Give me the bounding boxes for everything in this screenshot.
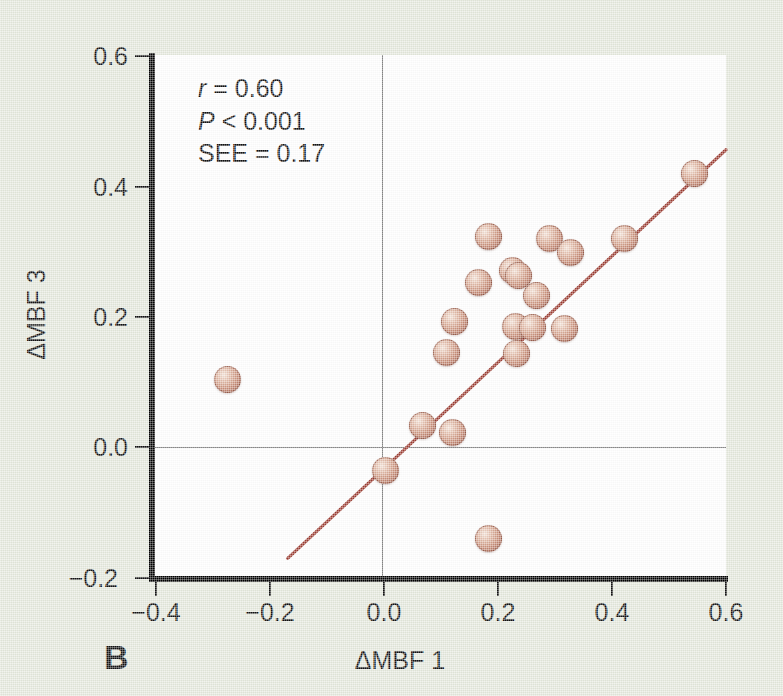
x-tick-0.4 [611,582,613,596]
data-point [557,239,584,266]
x-tick-0.6 [725,582,727,596]
x-tick--0.4 [155,582,157,596]
x-tick-label--0.4: −0.4 [111,598,201,627]
stat-r: r = 0.60 [198,72,325,105]
x-tick-label-0.4: 0.4 [567,598,657,627]
data-point [519,314,546,341]
stat-p: P < 0.001 [198,105,325,138]
statistics-annotation: r = 0.60 P < 0.001 SEE = 0.17 [198,72,325,170]
stat-p-value: < 0.001 [215,107,306,135]
figure-panel: B ΔMBF 3 ΔMBF 1 0.6 0.4 0.2 0.0 −0.2 −0.… [0,0,783,696]
y-tick-0.0 [135,446,149,448]
y-tick-label-0.2: 0.2 [62,303,128,332]
data-point [551,315,578,342]
y-axis-title: ΔMBF 3 [22,235,51,395]
data-point [465,269,492,296]
plot-area: r = 0.60 P < 0.001 SEE = 0.17 [153,55,726,578]
data-point [611,225,638,252]
stat-see: SEE = 0.17 [198,137,325,170]
data-point [409,412,436,439]
x-tick--0.2 [269,582,271,596]
data-point [475,223,502,250]
x-tick-0.0 [383,582,385,596]
y-tick-label-0.4: 0.4 [62,173,128,202]
x-tick-label--0.2: −0.2 [225,598,315,627]
y-tick-label-0.0: 0.0 [62,433,128,462]
x-tick-label-0.0: 0.0 [339,598,429,627]
stat-r-value: = 0.60 [206,74,283,102]
data-point [439,419,466,446]
panel-letter: B [104,638,129,677]
x-tick-0.2 [497,582,499,596]
y-tick--0.2 [135,577,149,579]
data-point [214,366,241,393]
y-tick-0.2 [135,316,149,318]
data-point [433,339,460,366]
data-point [441,308,468,335]
x-axis-title: ΔMBF 1 [340,646,460,675]
x-tick-label-0.6: 0.6 [681,598,771,627]
y-tick-label-0.6: 0.6 [62,42,128,71]
y-tick-0.4 [135,186,149,188]
y-axis-spine [149,53,155,582]
data-point [475,525,502,552]
x-tick-label-0.2: 0.2 [453,598,543,627]
y-tick-label--0.2: −0.2 [52,564,118,593]
y-tick-0.6 [135,55,149,57]
stat-p-symbol: P [198,107,215,135]
data-point [372,457,399,484]
x-axis-spine [149,576,728,582]
